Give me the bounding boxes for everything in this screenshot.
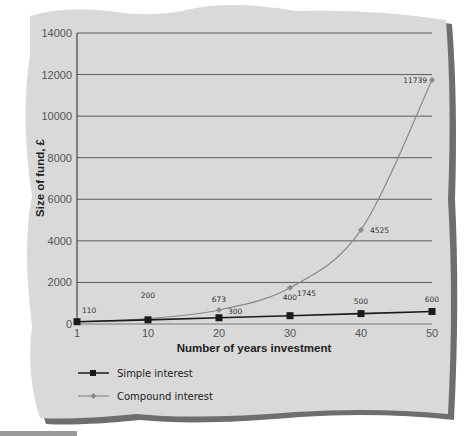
data-label: 400 <box>283 293 298 302</box>
x-axis-title: Number of years investment <box>177 342 332 354</box>
y-tick-label: 0 <box>66 318 72 330</box>
data-label: 200 <box>141 291 156 300</box>
x-tick-label: 20 <box>213 327 225 339</box>
data-label: 11739 <box>403 76 427 85</box>
legend-label-compound: Compound interest <box>117 391 213 402</box>
square-marker-icon <box>216 314 223 321</box>
x-tick-label: 40 <box>355 327 367 339</box>
square-marker-icon <box>358 310 365 317</box>
square-marker-icon <box>90 370 96 376</box>
x-tick-label: 50 <box>426 327 438 339</box>
chart-panel <box>25 5 451 418</box>
y-tick-label: 12000 <box>41 69 72 81</box>
square-marker-icon <box>74 318 81 325</box>
y-tick-label: 8000 <box>48 152 72 164</box>
y-axis-title: Size of fund, £ <box>34 138 46 217</box>
data-label: 600 <box>425 295 440 304</box>
data-label: 673 <box>212 295 227 304</box>
bottom-edge-bar <box>0 431 77 436</box>
y-tick-label: 4000 <box>48 235 72 247</box>
y-tick-label: 6000 <box>48 193 72 205</box>
data-label: 110 <box>82 306 97 315</box>
data-label: 1745 <box>297 289 316 298</box>
y-tick-label: 10000 <box>41 110 72 122</box>
square-marker-icon <box>145 316 152 323</box>
x-tick-label: 30 <box>284 327 296 339</box>
data-label: 300 <box>228 307 243 316</box>
x-tick-label: 1 <box>74 327 80 339</box>
data-label: 500 <box>354 297 369 306</box>
chart-figure: 02000400060008000100001200014000 1102030… <box>0 0 470 436</box>
y-tick-label: 14000 <box>41 27 72 39</box>
x-tick-label: 10 <box>142 327 154 339</box>
square-marker-icon <box>287 312 294 319</box>
data-label: 4525 <box>370 226 389 235</box>
legend-label-simple: Simple interest <box>117 368 193 379</box>
y-tick-label: 2000 <box>48 276 72 288</box>
square-marker-icon <box>429 308 436 315</box>
